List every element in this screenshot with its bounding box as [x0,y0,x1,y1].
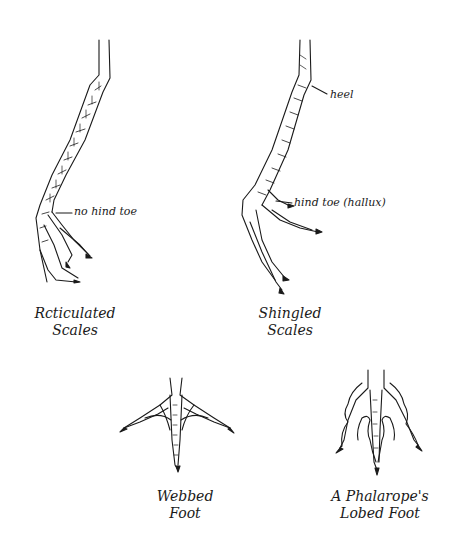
shingled-scales-leg-drawing [242,40,322,294]
reticulated-scales-leg-drawing [36,40,110,283]
illustrations [0,0,450,542]
caption-line: Lobed Foot [320,505,440,522]
reticulated-scales-caption: Rcticulated Scales [20,305,130,339]
no-hind-toe-label: no hind toe [74,205,137,218]
caption-line: Foot [130,505,240,522]
shingled-scales-caption: Shingled Scales [235,305,345,339]
hind-toe-hallux-label: hind toe (hallux) [294,196,386,209]
bird-feet-diagram: no hind toe heel hind toe (hallux) Rctic… [0,0,450,542]
caption-line: Webbed [130,488,240,505]
lobed-foot-caption: A Phalarope's Lobed Foot [320,488,440,522]
caption-line: A Phalarope's [320,488,440,505]
caption-line: Scales [20,322,130,339]
lobed-foot-drawing [336,370,422,475]
caption-line: Shingled [235,305,345,322]
webbed-foot-caption: Webbed Foot [130,488,240,522]
webbed-foot-drawing [120,378,234,472]
caption-line: Rcticulated [20,305,130,322]
heel-label: heel [330,88,354,101]
heel-leader [312,86,327,94]
caption-line: Scales [235,322,345,339]
